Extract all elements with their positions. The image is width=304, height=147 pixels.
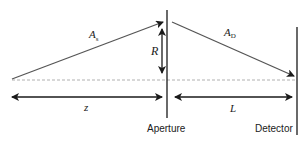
- detector-distance-label: L: [229, 102, 236, 114]
- source-ray-arrow: [12, 22, 163, 79]
- source-ray-subscript: s: [96, 35, 99, 43]
- source-ray-label: As: [88, 28, 99, 43]
- radius-label: R: [150, 44, 159, 58]
- aperture-label: Aperture: [147, 123, 186, 134]
- detector-ray-arrow: [172, 22, 294, 76]
- detector-ray-subscript: D: [231, 32, 236, 40]
- optical-diagram: As AD R z L Aperture Detector: [0, 0, 304, 147]
- detector-ray-label: AD: [223, 26, 236, 40]
- detector-label: Detector: [255, 123, 293, 134]
- source-distance-label: z: [83, 101, 89, 113]
